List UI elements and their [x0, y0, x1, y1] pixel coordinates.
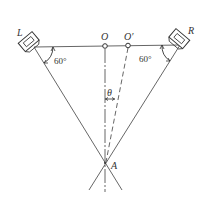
label-o-prime: O′ [124, 31, 134, 42]
label-a: A [110, 160, 118, 171]
label-l: L [16, 27, 23, 38]
point-a [104, 162, 106, 164]
point-o [103, 44, 108, 49]
line-l-to-a [34, 47, 122, 190]
label-left-angle: 60° [54, 56, 67, 66]
point-o-prime [126, 43, 131, 48]
label-theta: θ [107, 87, 112, 98]
label-o: O [101, 31, 108, 42]
label-r: R [187, 25, 194, 36]
line-r-to-a [89, 45, 180, 190]
triangulation-diagram: L R O O′ A θ 60° 60° [0, 0, 206, 202]
label-right-angle: 60° [139, 54, 152, 64]
